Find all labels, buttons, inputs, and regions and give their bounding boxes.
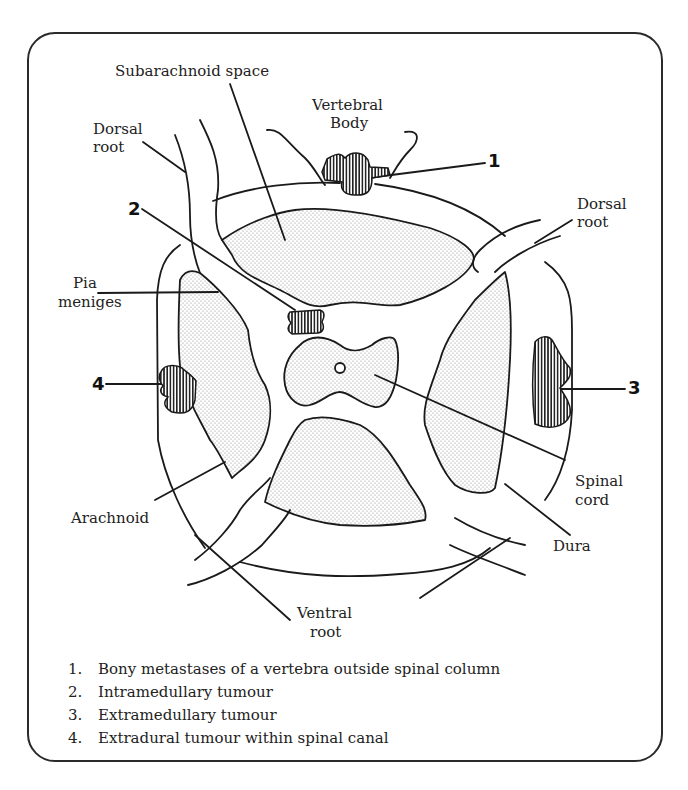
legend-text: Extradural tumour within spinal canal (98, 727, 389, 750)
label-arachnoid: Arachnoid (71, 509, 149, 527)
legend-number: 2. (68, 681, 98, 704)
legend-text: Bony metastases of a vertebra outside sp… (98, 658, 500, 681)
legend-number: 4. (68, 727, 98, 750)
label-spinal-cord-line1: Spinal (575, 472, 623, 490)
pointer-ventral-root-right (420, 538, 510, 598)
legend-number: 3. (68, 704, 98, 727)
legend-item: 2.Intramedullary tumour (68, 681, 500, 704)
ventral-root-right-nerve (450, 518, 525, 575)
tumour-1-vertebral (322, 153, 390, 195)
label-dura: Dura (553, 537, 591, 555)
label-dorsal-root-right-line2: root (577, 213, 608, 231)
subarachnoid-left (179, 271, 271, 478)
legend-text: Intramedullary tumour (98, 681, 273, 704)
pointer-dura (505, 484, 570, 535)
central-canal (335, 363, 345, 373)
marker-3: 3 (628, 377, 641, 398)
legend-item: 4.Extradural tumour within spinal canal (68, 727, 500, 750)
legend-item: 3.Extramedullary tumour (68, 704, 500, 727)
subarachnoid-right (424, 272, 510, 493)
label-dorsal-root-left-line1: Dorsal (93, 120, 143, 138)
tumour-2-intramedullary (288, 310, 324, 334)
label-vertebral-body-line1: Vertebral (312, 96, 383, 114)
subarachnoid-top (222, 209, 474, 307)
subarachnoid-bottom (265, 418, 426, 526)
label-subarachnoid-space: Subarachnoid space (115, 62, 269, 80)
label-pia-line1: Pia (73, 274, 97, 292)
pointer-dorsal-root-right (535, 220, 572, 243)
dorsal-root-left-nerve (175, 120, 222, 273)
label-dorsal-root-left-line2: root (93, 138, 124, 156)
legend-item: 1.Bony metastases of a vertebra outside … (68, 658, 500, 681)
label-ventral-root-line2: root (310, 623, 341, 641)
marker-2: 2 (128, 198, 141, 219)
label-pia-line2: meniges (58, 293, 122, 311)
label-ventral-root-line1: Ventral (297, 604, 352, 622)
marker-1: 1 (488, 150, 501, 171)
legend-number: 1. (68, 658, 98, 681)
marker-4: 4 (92, 373, 105, 394)
label-dorsal-root-right-line1: Dorsal (577, 195, 627, 213)
label-spinal-cord-line2: cord (575, 491, 609, 509)
label-vertebral-body-line2: Body (330, 114, 368, 132)
pointer-subarachnoid (230, 84, 285, 240)
legend-text: Extramedullary tumour (98, 704, 277, 727)
figure-legend: 1.Bony metastases of a vertebra outside … (68, 658, 500, 750)
tumour-3-extramedullary (533, 337, 571, 427)
